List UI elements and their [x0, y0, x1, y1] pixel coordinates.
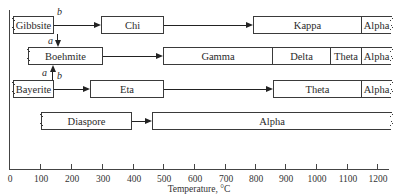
chi-box: Chi	[101, 16, 164, 34]
tick-label: 600	[188, 174, 202, 184]
tick-1000	[316, 164, 317, 169]
delta-box: Delta	[272, 47, 331, 65]
tick-700	[225, 164, 226, 169]
gibbsite-label: Gibbsite	[16, 20, 52, 31]
alpha-label: Alpha	[364, 51, 390, 62]
tick-label: 1000	[308, 174, 327, 184]
path-label-b: b	[57, 6, 62, 17]
tick-200	[71, 164, 72, 169]
connector-line	[164, 25, 246, 26]
arrow-right-icon	[156, 53, 163, 59]
connector-line	[164, 89, 266, 90]
theta-label: Theta	[334, 51, 358, 62]
path-label-a: a	[48, 35, 53, 46]
connector-line	[52, 71, 53, 80]
tick-label: 1100	[339, 174, 358, 184]
tick-label: 800	[249, 174, 263, 184]
alpha-box: Alpha	[152, 112, 391, 130]
connector-line	[132, 121, 145, 122]
diaspore-box: Diaspore	[41, 112, 132, 130]
tick-label: 0	[8, 174, 13, 184]
tick-500	[163, 164, 164, 169]
eta-box: Eta	[90, 80, 164, 98]
gamma-box: Gamma	[163, 47, 273, 65]
arrow-right-icon	[83, 86, 90, 92]
alpha-label: Alpha	[259, 116, 285, 127]
gamma-label: Gamma	[201, 51, 234, 62]
path-label-a: a	[42, 67, 47, 78]
connector-line	[54, 25, 94, 26]
tick-900	[285, 164, 286, 169]
gibbsite-box: Gibbsite	[13, 16, 54, 34]
theta-label: Theta	[306, 84, 330, 95]
tick-label: 100	[34, 174, 48, 184]
kappa-label: Kappa	[294, 20, 321, 31]
x-axis-line	[9, 169, 389, 170]
bayerite-box: Bayerite	[13, 80, 54, 98]
alpha-label: Alpha	[364, 84, 390, 95]
tick-label: 400	[127, 174, 141, 184]
tick-label: 900	[279, 174, 293, 184]
eta-label: Eta	[120, 84, 134, 95]
connector-line	[54, 89, 83, 90]
tick-label: 500	[157, 174, 171, 184]
tick-1100	[347, 164, 348, 169]
boehmite-label: Boehmite	[45, 51, 86, 62]
path-label-b: b	[57, 70, 62, 81]
bayerite-label: Bayerite	[16, 84, 52, 95]
theta-box: Theta	[273, 80, 362, 98]
tick-1200	[377, 164, 378, 169]
alpha-box: Alpha	[361, 47, 391, 65]
chi-label: Chi	[125, 20, 140, 31]
alpha-box: Alpha	[361, 80, 391, 98]
arrow-up-icon	[50, 65, 56, 72]
diaspore-label: Diaspore	[68, 116, 106, 127]
arrow-down-icon	[55, 40, 61, 47]
tick-label: 300	[96, 174, 110, 184]
tick-300	[102, 164, 103, 169]
alpha-label: Alpha	[364, 20, 390, 31]
arrow-right-icon	[145, 118, 152, 124]
tick-label: 200	[65, 174, 79, 184]
tick-400	[133, 164, 134, 169]
arrow-right-icon	[266, 86, 273, 92]
y-axis-line	[9, 10, 10, 169]
connector-line	[103, 56, 156, 57]
arrow-right-icon	[94, 22, 101, 28]
tick-800	[255, 164, 256, 169]
tick-label: 1200	[369, 174, 388, 184]
x-axis-title: Temperature, °C	[0, 184, 398, 194]
tick-100	[40, 164, 41, 169]
tick-600	[194, 164, 195, 169]
arrow-right-icon	[246, 22, 253, 28]
tick-label: 700	[219, 174, 233, 184]
kappa-box: Kappa	[253, 16, 362, 34]
alpha-box: Alpha	[361, 16, 391, 34]
boehmite-box: Boehmite	[28, 47, 103, 65]
theta-box: Theta	[330, 47, 362, 65]
delta-label: Delta	[290, 51, 313, 62]
